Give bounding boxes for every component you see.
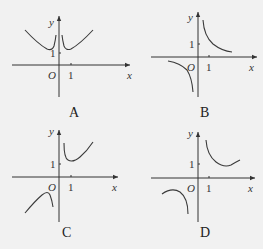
function-graphs-figure: y x O 1 1 A y x O 1 1 B y x O 1 1 C (0, 0, 263, 249)
x-axis-label: x (248, 61, 254, 73)
y-axis-label: y (187, 127, 193, 139)
x-tick-label: 1 (68, 181, 74, 193)
panel-d: y x O 1 1 D (151, 127, 255, 240)
x-tick-label: 1 (68, 69, 74, 81)
curve-lower-left-branch (25, 193, 53, 214)
y-axis-label: y (48, 125, 54, 137)
origin-label: O (187, 182, 195, 194)
y-axis-label: y (187, 11, 193, 23)
curve-right-branch (206, 140, 240, 166)
panel-label: C (62, 225, 71, 240)
origin-label: O (48, 69, 56, 81)
x-axis-label: x (126, 69, 132, 81)
x-axis-label: x (111, 181, 117, 193)
x-tick-label: 1 (206, 61, 212, 73)
x-tick-label: 1 (206, 182, 212, 194)
curve-first-quadrant-branch (203, 20, 232, 52)
panel-label: B (200, 105, 209, 120)
curve-upper-right-branch (64, 142, 93, 161)
y-tick-label: 1 (189, 158, 195, 170)
curve-right-branch (62, 30, 93, 50)
origin-label: O (187, 61, 195, 73)
panel-a: y x O 1 1 A (12, 16, 132, 120)
y-tick-label: 1 (189, 38, 195, 50)
panel-b: y x O 1 1 B (151, 11, 257, 120)
curve-left-branch (162, 190, 188, 214)
panel-label: D (200, 225, 210, 240)
y-tick-label: 1 (50, 47, 56, 59)
x-axis-label: x (247, 182, 253, 194)
panel-label: A (69, 105, 80, 120)
y-axis-label: y (48, 16, 54, 28)
panel-c: y x O 1 1 C (12, 125, 118, 240)
y-tick-label: 1 (50, 158, 56, 170)
origin-label: O (48, 181, 56, 193)
